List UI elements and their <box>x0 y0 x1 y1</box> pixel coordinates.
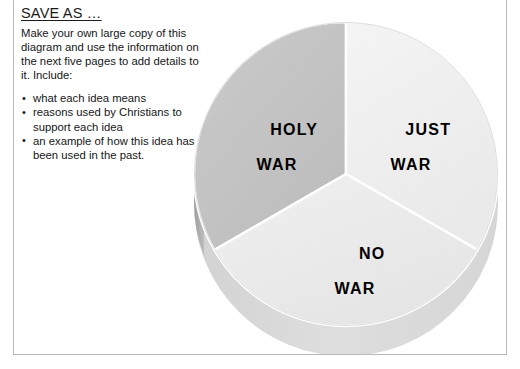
pie-chart-icon <box>186 0 506 354</box>
intro-paragraph: Make your own large copy of this diagram… <box>21 26 207 82</box>
pie-chart: HOLY WAR JUST WAR NO WAR <box>186 0 506 354</box>
list-item: reasons used by Christians to support ea… <box>21 105 207 133</box>
worksheet-page: SAVE AS … Make your own large copy of th… <box>0 0 520 369</box>
list-item: what each idea means <box>21 91 207 105</box>
save-as-panel: SAVE AS … Make your own large copy of th… <box>21 5 207 162</box>
instruction-list: what each idea means reasons used by Chr… <box>21 91 207 161</box>
page-title: SAVE AS … <box>21 5 207 22</box>
list-item: an example of how this idea has been use… <box>21 134 207 162</box>
